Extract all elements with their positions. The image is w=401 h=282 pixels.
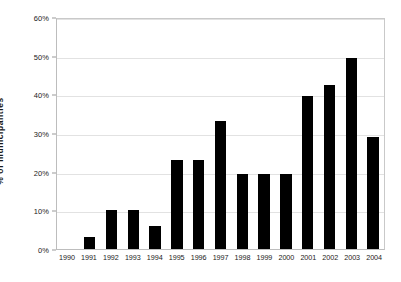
bar (258, 174, 269, 249)
bar-slot (79, 19, 101, 249)
x-axis-tick-label: 2003 (341, 252, 363, 268)
x-axis-tick-label: 1991 (78, 252, 100, 268)
y-axis-tick-label: 10% (34, 207, 49, 216)
bar (84, 237, 95, 249)
bar (324, 85, 335, 249)
bar (171, 160, 182, 249)
bar-slot (101, 19, 123, 249)
bar (106, 210, 117, 249)
bar (193, 160, 204, 249)
x-axis-tick-label: 1995 (166, 252, 188, 268)
x-axis-tick-labels: 1990199119921993199419951996199719981999… (56, 252, 385, 268)
bars-container (57, 19, 384, 249)
y-axis-tick-label: 60% (34, 14, 49, 23)
bar-slot (297, 19, 319, 249)
x-axis-tick-label: 1996 (188, 252, 210, 268)
x-axis-tick-label: 1993 (122, 252, 144, 268)
x-axis-tick-label: 1994 (144, 252, 166, 268)
x-axis-tick-label: 1998 (232, 252, 254, 268)
bar (280, 174, 291, 249)
bar-slot (362, 19, 384, 249)
x-axis-tick-label: 1990 (56, 252, 78, 268)
bar-slot (319, 19, 341, 249)
bar (149, 226, 160, 249)
bar (128, 210, 139, 249)
bar-slot (188, 19, 210, 249)
y-axis-tick-label: 20% (34, 168, 49, 177)
x-axis-tick-label: 2000 (275, 252, 297, 268)
y-axis-tick-label: 30% (34, 130, 49, 139)
bar (302, 96, 313, 249)
bar-slot (275, 19, 297, 249)
bar-slot (122, 19, 144, 249)
bar-chart: % of municipalities 0%10%20%30%40%50%60%… (0, 0, 401, 282)
bar (367, 137, 378, 249)
bar-slot (166, 19, 188, 249)
y-axis-tick-labels: 0%10%20%30%40%50%60% (20, 18, 52, 250)
bar (237, 174, 248, 249)
x-axis-tick-label: 1992 (100, 252, 122, 268)
bar-slot (144, 19, 166, 249)
bar-slot (57, 19, 79, 249)
x-axis-tick-label: 2002 (319, 252, 341, 268)
bar-slot (340, 19, 362, 249)
plot-area (56, 18, 385, 250)
bar-slot (231, 19, 253, 249)
bar (346, 58, 357, 249)
y-axis-tick-label: 50% (34, 52, 49, 61)
y-axis-tick-label: 40% (34, 91, 49, 100)
y-axis-tick-label: 0% (38, 246, 49, 255)
bar-slot (210, 19, 232, 249)
x-axis-tick-label: 1997 (210, 252, 232, 268)
bar (215, 121, 226, 249)
x-axis-tick-label: 2001 (297, 252, 319, 268)
bar-slot (253, 19, 275, 249)
x-axis-tick-label: 1999 (253, 252, 275, 268)
x-axis-tick-label: 2004 (363, 252, 385, 268)
